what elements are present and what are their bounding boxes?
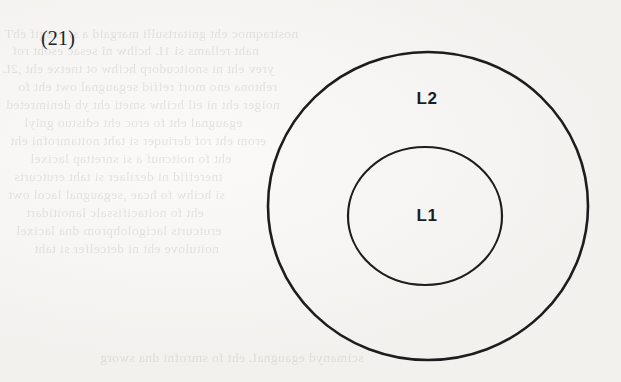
concentric-circles-diagram xyxy=(0,0,621,382)
scanned-page: nosiraqmoc eht gnitartsulli margaid a si… xyxy=(0,0,621,382)
outer-region-label-l2: L2 xyxy=(416,89,437,109)
inner-region-label-l1: L1 xyxy=(416,206,437,226)
